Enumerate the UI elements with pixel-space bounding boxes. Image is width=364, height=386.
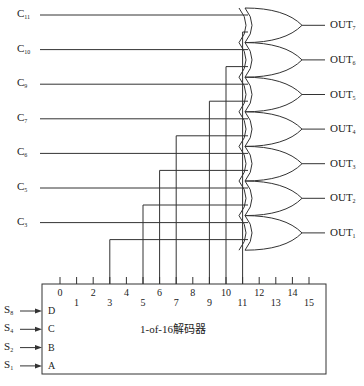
output-label-OUT2: OUT2 xyxy=(330,192,356,207)
control-label-C6: C6 xyxy=(17,146,27,161)
decoder-pin-B: B xyxy=(48,343,55,353)
decoder-output-14: 14 xyxy=(287,288,297,298)
decoder-pin-D: D xyxy=(48,306,55,316)
decoder-output-5: 5 xyxy=(141,298,146,308)
decoder-pin-A: A xyxy=(48,361,55,371)
decoder-title: 1-of-16解码器 xyxy=(140,320,206,336)
diagram-canvas: C11C10C9C7C6C5C3 OUT7OUT6OUT5OUT4OUT3OUT… xyxy=(0,0,364,386)
output-label-OUT5: OUT5 xyxy=(330,89,356,104)
output-label-OUT1: OUT1 xyxy=(330,227,356,242)
decoder-output-7: 7 xyxy=(174,298,179,308)
decoder-output-11: 11 xyxy=(238,298,248,308)
input-label-S4: S4 xyxy=(4,322,13,337)
output-label-OUT3: OUT3 xyxy=(330,158,356,173)
output-label-OUT4: OUT4 xyxy=(330,123,356,138)
control-label-C7: C7 xyxy=(17,112,27,127)
decoder-output-6: 6 xyxy=(157,288,162,298)
input-label-S2: S2 xyxy=(4,341,13,356)
control-label-C11: C11 xyxy=(17,8,30,23)
control-label-C10: C10 xyxy=(17,43,30,58)
decoder-output-15: 15 xyxy=(304,298,314,308)
decoder-output-9: 9 xyxy=(207,298,212,308)
input-label-S1: S1 xyxy=(4,359,13,374)
output-label-OUT7: OUT7 xyxy=(330,19,356,34)
decoder-output-2: 2 xyxy=(91,288,96,298)
decoder-output-12: 12 xyxy=(254,288,264,298)
input-label-S8: S8 xyxy=(4,304,13,319)
decoder-output-8: 8 xyxy=(190,288,195,298)
control-label-C9: C9 xyxy=(17,77,27,92)
decoder-output-10: 10 xyxy=(221,288,231,298)
decoder-output-0: 0 xyxy=(58,288,63,298)
decoder-pin-C: C xyxy=(48,324,55,334)
decoder-output-3: 3 xyxy=(107,298,112,308)
decoder-output-4: 4 xyxy=(124,288,129,298)
control-label-C3: C3 xyxy=(17,216,27,231)
output-label-OUT6: OUT6 xyxy=(330,54,356,69)
decoder-output-1: 1 xyxy=(74,298,79,308)
decoder-output-13: 13 xyxy=(271,298,281,308)
control-label-C5: C5 xyxy=(17,181,27,196)
